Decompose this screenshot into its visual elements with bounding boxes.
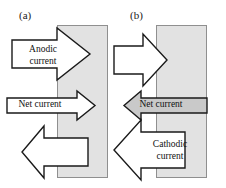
panel-b-graphics (113, 0, 226, 188)
panel-a-graphics (0, 0, 113, 188)
figure-root: (a) Anodic current Net current (b) (0, 0, 226, 188)
net-current-arrow (7, 91, 95, 120)
panel-b: (b) Net current Cathodic current (113, 0, 226, 188)
panel-a: (a) Anodic current Net current (0, 0, 113, 188)
